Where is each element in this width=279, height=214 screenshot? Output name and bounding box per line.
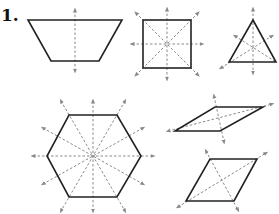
trapezoid-outline [28, 20, 122, 61]
rhombus-flat-figure [168, 96, 272, 142]
symmetry-diagram [0, 0, 279, 214]
square-figure [132, 9, 202, 79]
rhombus-tilted-figure [178, 151, 266, 210]
trapezoid-figure [28, 10, 122, 71]
hexagon-figure [33, 101, 153, 211]
triangle-figure [221, 9, 276, 73]
